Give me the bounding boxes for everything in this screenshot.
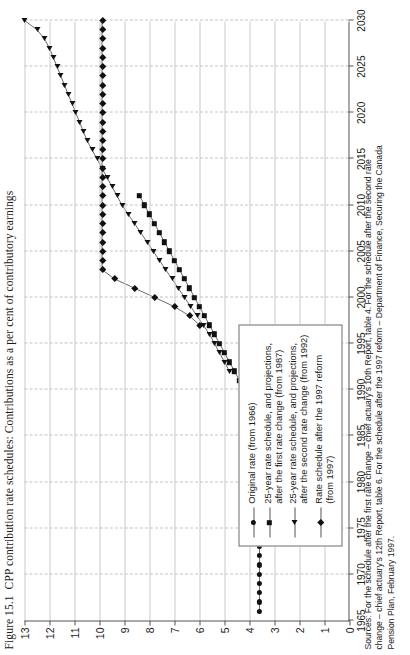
- x-axis-tick: [348, 296, 353, 297]
- y-axis-tick: [74, 620, 75, 625]
- data-point-marker: [80, 128, 86, 133]
- legend-symbol: [316, 519, 322, 525]
- data-point-marker: [171, 257, 176, 262]
- legend-marker-square-icon: [263, 507, 275, 537]
- data-point-marker: [125, 211, 131, 216]
- y-axis-label: 9: [118, 627, 130, 633]
- data-point-marker: [76, 119, 82, 124]
- y-axis-tick: [224, 620, 225, 625]
- data-point-marker: [65, 91, 71, 96]
- data-point-marker: [57, 73, 63, 78]
- data-point-marker: [187, 304, 193, 309]
- legend-marker-circle-icon: [247, 507, 259, 537]
- legend-item: Rate schedule after the 1997 reform (fro…: [313, 334, 335, 537]
- y-axis-tick: [324, 620, 325, 625]
- data-point-marker: [119, 202, 125, 207]
- data-point-marker: [21, 18, 27, 23]
- data-point-marker: [156, 258, 162, 263]
- data-point-marker: [109, 184, 115, 189]
- figure-stage: Figure 15.1CPP contribution rate schedul…: [0, 0, 410, 655]
- legend-item-label: Original rate (from 1966): [246, 402, 257, 503]
- data-point-marker: [156, 230, 161, 235]
- sources-line-1: Sources: For the schedule after the firs…: [362, 9, 373, 649]
- grid-line-vertical: [24, 573, 348, 574]
- data-point-marker: [176, 267, 181, 272]
- data-point-marker: [150, 248, 156, 253]
- data-point-marker: [256, 599, 261, 604]
- data-point-marker: [161, 239, 166, 244]
- y-axis-tick: [274, 620, 275, 625]
- x-axis-tick: [348, 65, 353, 66]
- y-axis-label: 4: [243, 627, 255, 633]
- grid-line-vertical: [24, 157, 348, 158]
- data-point-marker: [84, 138, 90, 143]
- data-point-marker: [206, 331, 212, 336]
- data-point-marker: [162, 267, 168, 272]
- y-axis-label: 13: [18, 627, 30, 639]
- data-point-marker: [166, 248, 171, 253]
- data-point-marker: [69, 101, 75, 106]
- data-point-marker: [256, 571, 261, 576]
- y-axis-label: 3: [268, 627, 280, 633]
- data-point-marker: [256, 553, 261, 558]
- data-point-marker: [54, 64, 60, 69]
- legend-marker-triangle-icon: [288, 507, 300, 537]
- x-axis-tick: [348, 619, 353, 620]
- x-axis-tick: [348, 527, 353, 528]
- data-point-marker: [136, 193, 141, 198]
- y-axis-tick: [124, 620, 125, 625]
- y-axis-tick: [24, 620, 25, 625]
- y-axis-tick: [349, 620, 350, 625]
- data-point-marker: [181, 294, 187, 299]
- legend-item: 25-year rate schedule, and projections, …: [287, 334, 309, 537]
- x-axis-tick: [348, 481, 353, 482]
- data-point-marker: [194, 313, 200, 318]
- x-axis-tick: [348, 111, 353, 112]
- x-axis-tick: [348, 157, 353, 158]
- y-axis-label: 5: [218, 627, 230, 633]
- y-axis-label: 7: [168, 627, 180, 633]
- y-axis-label: 10: [93, 627, 105, 639]
- data-point-marker: [221, 359, 227, 364]
- data-point-marker: [61, 82, 67, 87]
- data-point-marker: [46, 45, 52, 50]
- legend-marker-diamond-icon: [314, 507, 326, 537]
- data-point-marker: [196, 303, 201, 308]
- y-axis-label: 11: [68, 627, 80, 638]
- data-point-marker: [206, 322, 211, 327]
- legend-symbol: [266, 519, 271, 524]
- legend-item-label: Rate schedule after the 1997 reform (fro…: [313, 354, 335, 503]
- y-axis-tick: [99, 620, 100, 625]
- y-axis-label: 0: [343, 627, 355, 633]
- y-axis-tick: [249, 620, 250, 625]
- chart-plot-area: 0123456789101112131965197019751980198519…: [24, 21, 349, 621]
- data-point-marker: [186, 285, 191, 290]
- data-point-marker: [191, 294, 196, 299]
- figure-page: Figure 15.1CPP contribution rate schedul…: [0, 0, 410, 655]
- data-point-marker: [50, 54, 56, 59]
- data-point-marker: [201, 313, 206, 318]
- sources-line-2: change – chief actuary's 12th Report, ta…: [373, 9, 384, 649]
- data-point-marker: [256, 562, 261, 567]
- x-axis-tick: [348, 204, 353, 205]
- grid-line-vertical: [24, 19, 348, 20]
- data-point-marker: [72, 110, 78, 115]
- x-axis-tick: [348, 573, 353, 574]
- grid-line-vertical: [24, 65, 348, 66]
- y-axis-label: 6: [193, 627, 205, 633]
- data-point-marker: [256, 580, 261, 585]
- data-point-marker: [226, 368, 232, 373]
- y-axis-label: 8: [143, 627, 155, 633]
- y-axis-tick: [149, 620, 150, 625]
- data-point-marker: [211, 341, 217, 346]
- figure-number: Figure 15.1: [2, 595, 14, 649]
- figure-title: Figure 15.1CPP contribution rate schedul…: [2, 190, 14, 649]
- data-point-marker: [131, 221, 137, 226]
- data-point-marker: [144, 239, 150, 244]
- data-point-marker: [216, 350, 222, 355]
- sources-line-3: Pension Plan, February 1997.: [385, 9, 396, 649]
- plot-canvas: 0123456789101112131965197019751980198519…: [24, 21, 349, 621]
- legend-item: 25-year rate schedule, and projections, …: [262, 334, 284, 537]
- data-point-marker: [141, 202, 146, 207]
- legend-item: Original rate (from 1966): [246, 334, 259, 537]
